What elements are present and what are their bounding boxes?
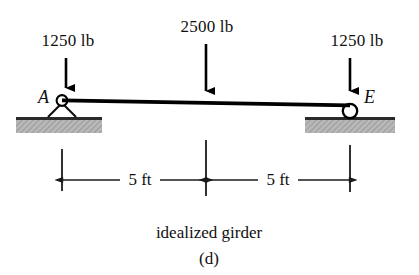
figure-caption: idealized girder (156, 224, 262, 241)
idealized-girder-figure: 1250 lb 2500 lb 1250 lb A E 5 ft 5 ft id… (0, 0, 419, 275)
support-label-e: E (364, 88, 375, 106)
ground-support-left (16, 119, 102, 134)
pin-support-icon (48, 95, 76, 117)
girder-beam (62, 99, 350, 108)
load-label-right: 1250 lb (331, 32, 384, 49)
dimension-extension-lines (62, 140, 350, 196)
load-label-left: 1250 lb (42, 32, 95, 49)
dimension-label-left: 5 ft (128, 171, 151, 188)
load-label-center: 2500 lb (181, 18, 234, 35)
figure-subcaption: (d) (199, 250, 219, 267)
support-label-a: A (38, 88, 49, 106)
ground-support-right (305, 119, 395, 134)
dimension-label-right: 5 ft (266, 171, 289, 188)
